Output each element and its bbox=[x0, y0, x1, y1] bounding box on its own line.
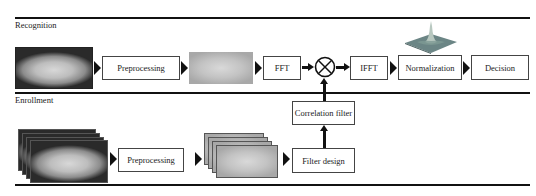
top-divider bbox=[15, 17, 530, 19]
recognition-label: Recognition bbox=[15, 20, 57, 30]
preprocessed-palm-image bbox=[189, 52, 253, 84]
flow-arrow-icon bbox=[110, 152, 117, 166]
flow-arrow-icon bbox=[195, 152, 202, 166]
arrow-icon bbox=[323, 131, 326, 148]
flow-arrow-icon bbox=[255, 61, 262, 75]
decision-box: Decision bbox=[471, 55, 529, 80]
preprocessed-image-stack-card bbox=[216, 145, 278, 178]
multiply-node-icon bbox=[314, 56, 336, 78]
flow-arrow-icon bbox=[181, 61, 188, 75]
correlation-peak-icon bbox=[403, 20, 459, 54]
arrow-icon bbox=[323, 84, 326, 101]
ifft-box: IFFT bbox=[350, 56, 388, 80]
fft-box: FFT bbox=[263, 56, 301, 80]
normalization-box: Normalization bbox=[398, 55, 462, 80]
input-palm-image bbox=[15, 47, 93, 89]
correlation-filter-box: Correlation filter bbox=[292, 101, 355, 125]
arrow-icon bbox=[336, 66, 344, 69]
arrow-icon bbox=[302, 66, 308, 69]
flow-arrow-icon bbox=[283, 152, 290, 166]
recognition-preprocessing-box: Preprocessing bbox=[102, 56, 180, 80]
enrollment-image-stack-card bbox=[30, 140, 108, 183]
flow-arrow-icon bbox=[94, 61, 101, 75]
bottom-divider bbox=[15, 184, 530, 186]
enrollment-preprocessing-box: Preprocessing bbox=[118, 148, 184, 172]
middle-divider bbox=[15, 92, 530, 94]
filter-design-box: Filter design bbox=[292, 148, 355, 173]
flow-arrow-icon bbox=[463, 61, 470, 75]
enrollment-label: Enrollment bbox=[15, 95, 53, 105]
flow-arrow-icon bbox=[390, 61, 397, 75]
